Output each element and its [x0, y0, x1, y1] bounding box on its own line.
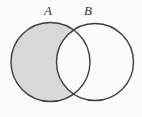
set-a-label: A	[43, 3, 52, 18]
set-b-label: B	[84, 3, 92, 18]
venn-diagram: A B	[0, 0, 142, 117]
venn-diagram-canvas: A B	[0, 0, 142, 117]
